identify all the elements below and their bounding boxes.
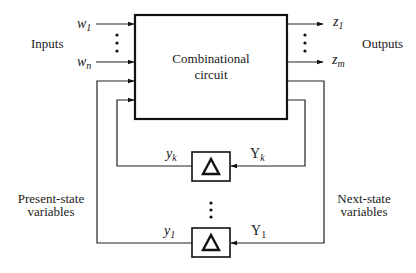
input-ellipsis-dots: [115, 33, 118, 52]
combinational-circuit-block: Combinational circuit: [135, 15, 287, 119]
output-zm-label: zm: [331, 52, 345, 69]
delay-ellipsis-dots: [209, 201, 212, 218]
inputs-label: Inputs: [31, 36, 64, 51]
input-w1-label: w1: [77, 16, 91, 33]
present-state-yk-label: yk: [164, 146, 177, 163]
block-label-line2: circuit: [194, 67, 228, 82]
input-wn-label: wn: [77, 54, 91, 71]
present-state-variables-label: Present-state variables: [18, 191, 85, 219]
svg-text:variables: variables: [28, 204, 75, 219]
next-state-variables-label: Next-state variables: [337, 191, 391, 219]
next-state-Yk-label: Yk: [250, 146, 265, 163]
inputs-group: Inputs w1 wn: [31, 16, 134, 71]
output-z1-label: z1: [332, 14, 343, 31]
delay-element-k: [192, 152, 230, 181]
outputs-label: Outputs: [362, 36, 403, 51]
delay-element-1: [192, 228, 230, 257]
present-state-y1-label: y1: [162, 223, 175, 240]
sequential-circuit-diagram: Combinational circuit Inputs w1 wn z1 zm…: [0, 0, 416, 273]
block-label-line1: Combinational: [172, 51, 250, 66]
outputs-group: z1 zm Outputs: [287, 14, 403, 69]
svg-text:variables: variables: [341, 204, 388, 219]
next-state-Y1-label: Y1: [251, 223, 266, 240]
output-ellipsis-dots: [303, 33, 306, 52]
